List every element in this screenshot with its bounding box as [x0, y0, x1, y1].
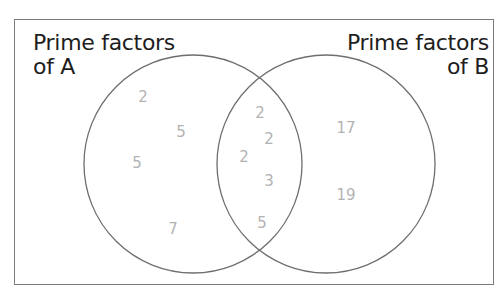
- set-b-circle: [217, 55, 435, 273]
- intersection-value: 5: [257, 214, 267, 232]
- set-a-value: 2: [138, 88, 148, 106]
- intersection-value: 2: [264, 130, 274, 148]
- set-b-value: 17: [336, 119, 355, 137]
- set-a-value: 7: [168, 220, 178, 238]
- set-a-value: 5: [132, 154, 142, 172]
- intersection-value: 2: [255, 104, 265, 122]
- intersection-value: 2: [239, 148, 249, 166]
- set-b-value: 19: [336, 186, 355, 204]
- intersection-value: 3: [264, 172, 274, 190]
- set-a-value: 5: [176, 123, 186, 141]
- set-a-circle: [84, 55, 302, 273]
- venn-circles: [0, 0, 504, 299]
